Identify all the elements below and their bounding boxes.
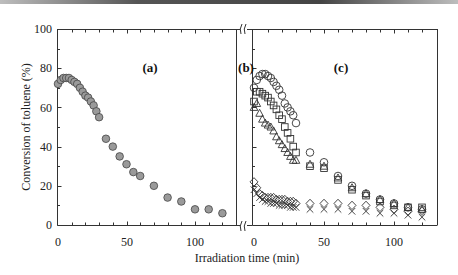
y-tick-80: 80 xyxy=(40,61,52,75)
panel-a-frame xyxy=(58,29,237,226)
axis-ticks xyxy=(58,30,423,226)
x-tick-c-50: 50 xyxy=(318,235,330,249)
panel-label-b: (b) xyxy=(238,60,254,75)
panel-label-c: (c) xyxy=(334,60,348,75)
data-point xyxy=(391,210,398,217)
y-tick-60: 60 xyxy=(40,101,52,115)
data-point xyxy=(306,149,314,157)
series-panel-c xyxy=(250,70,426,220)
data-point xyxy=(178,198,186,206)
data-point xyxy=(251,186,258,193)
data-point xyxy=(278,92,286,100)
x-tick-c-100: 100 xyxy=(385,235,403,249)
y-tick-40: 40 xyxy=(40,140,52,154)
data-point xyxy=(95,113,103,121)
data-point xyxy=(205,206,213,214)
data-point xyxy=(102,135,110,143)
x-tick-a-0: 0 xyxy=(55,235,61,249)
data-point xyxy=(250,178,258,186)
y-tick-0: 0 xyxy=(46,218,52,232)
axis-break-bottom-icon xyxy=(240,220,247,231)
data-point xyxy=(116,153,124,161)
data-point xyxy=(164,194,172,202)
data-point xyxy=(306,160,314,167)
toluene-conversion-chart: 0 20 40 60 80 100 0 50 100 0 50 100 Conv… xyxy=(0,0,458,275)
data-point xyxy=(270,102,277,109)
data-point xyxy=(405,212,412,219)
panel-label-a: (a) xyxy=(142,60,157,75)
data-point xyxy=(123,160,131,168)
x-axis-title: Irradiation time (min) xyxy=(195,251,300,265)
series-panel-a xyxy=(54,74,226,217)
data-point xyxy=(279,116,286,123)
x-tick-a-50: 50 xyxy=(121,235,133,249)
data-point xyxy=(191,206,199,214)
data-point xyxy=(150,182,158,190)
y-axis-title: Conversion of toluene (%) xyxy=(19,63,33,191)
data-point xyxy=(292,119,300,127)
data-point xyxy=(136,172,144,180)
y-tick-100: 100 xyxy=(34,22,52,36)
x-tick-a-100: 100 xyxy=(186,235,204,249)
data-point xyxy=(109,143,117,151)
axis-break-top-icon xyxy=(240,24,247,34)
y-tick-20: 20 xyxy=(40,179,52,193)
data-point xyxy=(219,209,227,217)
x-tick-c-0: 0 xyxy=(251,235,257,249)
data-point xyxy=(130,168,138,176)
